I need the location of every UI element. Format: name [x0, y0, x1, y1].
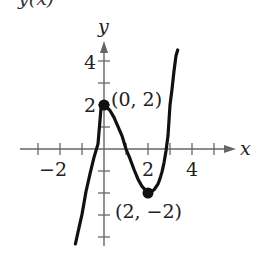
local-min-point	[143, 188, 154, 199]
x-tick-label-2: 2	[142, 158, 154, 180]
x-axis-label: x	[240, 137, 251, 159]
y-axis-label: y	[97, 15, 109, 37]
y-axis-arrow-icon	[100, 41, 108, 53]
x-tick-label-4: 4	[186, 158, 198, 180]
point-label-max: (0, 2)	[111, 88, 162, 110]
y-tick-label-2: 2	[84, 94, 96, 116]
point-label-min: (2, −2)	[115, 200, 182, 222]
cubic-graph: y x −2 2 4 4 2 (0, 2) (2, −2)	[0, 0, 268, 262]
x-tick-label-neg2: −2	[39, 158, 67, 180]
y-tick-label-4: 4	[84, 51, 96, 73]
local-max-point	[99, 100, 110, 111]
x-axis-arrow-icon	[224, 145, 236, 153]
